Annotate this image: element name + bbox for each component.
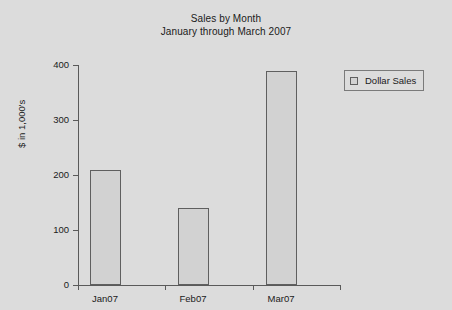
x-tick-label-feb07: Feb07	[180, 293, 207, 304]
legend-swatch-icon	[350, 77, 358, 85]
y-tick-label-200: 200	[53, 169, 69, 180]
x-tick-boundary-3	[340, 285, 341, 290]
y-tick-400: 400	[73, 65, 78, 66]
bar-jan07[interactable]	[90, 170, 121, 286]
x-tick-boundary-2	[253, 285, 254, 290]
x-tick-boundary-1	[165, 285, 166, 290]
legend-label-dollar-sales: Dollar Sales	[365, 75, 416, 86]
y-tick-200: 200	[73, 175, 78, 176]
chart-title-block: Sales by Month January through March 200…	[0, 12, 452, 38]
plot-area: 0 100 200 300 400 Jan07 Feb07 Mar07	[78, 65, 340, 285]
y-tick-300: 300	[73, 120, 78, 121]
legend[interactable]: Dollar Sales	[344, 70, 424, 91]
x-tick-label-jan07: Jan07	[92, 293, 118, 304]
bar-feb07[interactable]	[178, 208, 209, 285]
y-tick-label-100: 100	[53, 224, 69, 235]
x-axis-line	[78, 285, 341, 286]
chart-title: Sales by Month	[0, 12, 452, 25]
bar-chart: Sales by Month January through March 200…	[0, 0, 452, 310]
y-tick-label-0: 0	[64, 279, 69, 290]
x-tick-boundary-0	[78, 285, 79, 290]
x-tick-label-mar07: Mar07	[268, 293, 295, 304]
y-axis-label: $ in 1,000's	[16, 100, 27, 148]
y-tick-100: 100	[73, 230, 78, 231]
chart-subtitle: January through March 2007	[0, 25, 452, 38]
y-tick-label-300: 300	[53, 114, 69, 125]
bar-mar07[interactable]	[266, 71, 297, 286]
y-axis-line	[78, 65, 79, 286]
y-tick-label-400: 400	[53, 59, 69, 70]
